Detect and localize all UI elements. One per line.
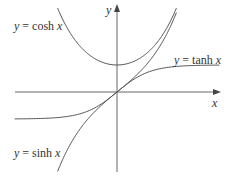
y-axis-label: y xyxy=(106,4,111,16)
x-axis-arrow-icon xyxy=(213,89,221,95)
tanh-label: y = tanh x xyxy=(174,54,221,66)
sinh-label-x: x xyxy=(55,146,60,160)
x-axis xyxy=(15,89,221,95)
tanh-label-eq: = tanh xyxy=(179,53,215,67)
sinh-label: y = sinh x xyxy=(14,147,60,159)
y-axis-label-text: y xyxy=(106,3,111,17)
cosh-label-eq: = cosh xyxy=(19,19,57,33)
y-axis-arrow-icon xyxy=(114,4,120,12)
sinh-label-eq: = sinh xyxy=(19,146,55,160)
x-axis-label: x xyxy=(212,97,217,109)
cosh-label: y = cosh x xyxy=(14,20,62,32)
tanh-label-x: x xyxy=(216,53,221,67)
y-axis xyxy=(114,4,120,172)
cosh-label-x: x xyxy=(57,19,62,33)
x-axis-label-text: x xyxy=(212,96,217,110)
